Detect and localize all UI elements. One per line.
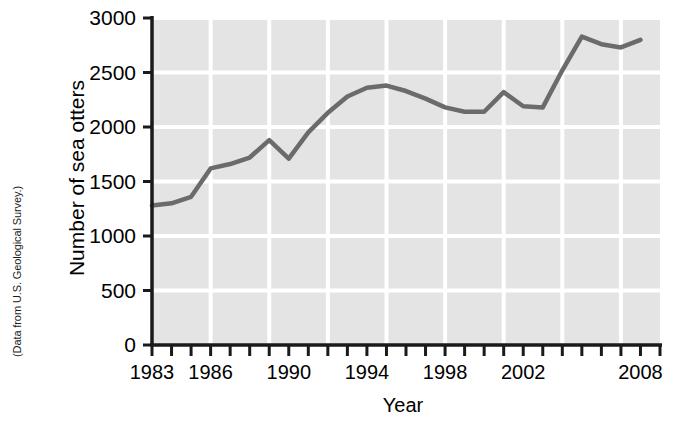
y-axis-tick-label: 3000 bbox=[89, 6, 136, 29]
y-axis-tick-labels: 050010001500200025003000 bbox=[89, 6, 136, 356]
x-axis-tick-label: 1983 bbox=[130, 361, 175, 383]
y-axis-tick-label: 2000 bbox=[89, 115, 136, 138]
y-axis-tick-label: 0 bbox=[124, 333, 136, 356]
x-axis-tick-label: 1998 bbox=[423, 361, 468, 383]
y-axis-tick-label: 500 bbox=[101, 279, 136, 302]
x-axis-tick-label: 1990 bbox=[267, 361, 312, 383]
x-axis-tick-label: 1986 bbox=[188, 361, 233, 383]
sea-otter-population-figure: (Data from U.S. Geological Survey.) Numb… bbox=[0, 0, 694, 444]
y-axis-tick-label: 1000 bbox=[89, 224, 136, 247]
y-axis-tick-label: 1500 bbox=[89, 170, 136, 193]
x-axis-tick-label: 2008 bbox=[618, 361, 663, 383]
line-chart-plot: 050010001500200025003000 198319861990199… bbox=[0, 0, 694, 444]
y-axis-tick-label: 2500 bbox=[89, 61, 136, 84]
x-axis-tick-label: 2002 bbox=[501, 361, 546, 383]
x-axis-tick-labels: 1983198619901994199820022008 bbox=[130, 361, 663, 383]
x-axis-tick-label: 1994 bbox=[345, 361, 390, 383]
